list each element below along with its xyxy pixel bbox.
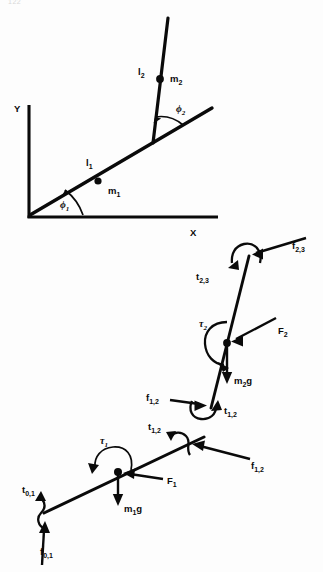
F2-force-label: F2 — [278, 325, 288, 338]
link1-length-label: l1 — [86, 157, 93, 170]
t23-torque-arrowhead — [228, 260, 239, 270]
fbd-link2: f2,3 t2,3 τ2 F2 m2g f1,2 — [146, 238, 306, 419]
tau1-torque-label: τ1 — [100, 435, 108, 449]
F1-force-label: F1 — [167, 475, 177, 488]
fbd-link1: f1,2 t1,2 τ1 F1 m1g t0,1 — [22, 421, 264, 565]
x-axis-label: X — [190, 227, 197, 238]
link1-mass-label: m1 — [108, 185, 120, 198]
phi2-angle-arc — [155, 117, 183, 125]
tau1-torque-arc — [95, 447, 132, 470]
F2-force-shaft — [236, 318, 276, 339]
tau1-torque-arrowhead — [88, 463, 99, 474]
link1-body — [30, 108, 212, 215]
kinematics-diagram: Y X l1 m1 l2 m2 ϕ1 ϕ2 — [14, 18, 218, 238]
link2-length-label: l2 — [138, 66, 145, 79]
phi1-angle-label: ϕ1 — [60, 199, 69, 213]
figure-container: 122 Y X l1 m1 l2 m2 ϕ1 — [0, 0, 323, 572]
m2g-weight-label: m2g — [234, 375, 252, 388]
m1g-weight-label: m1g — [124, 503, 142, 516]
t23-torque-label: t2,3 — [196, 271, 209, 285]
t12-on-link1-label: t1,2 — [148, 421, 161, 435]
F1-force-arrowhead — [123, 469, 135, 480]
m2g-weight-arrowhead — [222, 372, 232, 384]
tau2-torque-label: τ2 — [199, 318, 207, 332]
F1-force-shaft — [130, 474, 163, 479]
t01-torque-arrowhead — [35, 491, 46, 501]
f12-on-link1-shaft — [200, 446, 250, 459]
y-axis-label: Y — [14, 103, 21, 114]
f12-on-link2-arrowhead — [195, 401, 208, 412]
f12-on-link2-label: f1,2 — [146, 392, 159, 406]
link2-mass-label: m2 — [170, 73, 182, 86]
link2-center-of-mass-dot — [156, 75, 164, 83]
t12-on-link1-arrowhead — [166, 431, 176, 441]
f23-force-label: f2,3 — [292, 240, 305, 254]
mechanics-figure: Y X l1 m1 l2 m2 ϕ1 ϕ2 — [0, 0, 323, 572]
m1g-weight-arrowhead — [113, 494, 123, 506]
link1-center-of-mass-dot — [94, 177, 101, 184]
t01-torque-label: t0,1 — [22, 484, 35, 498]
f12-on-link1-label: f1,2 — [251, 460, 264, 474]
t12-on-link2-label: t1,2 — [224, 405, 237, 419]
phi2-angle-label: ϕ2 — [176, 103, 186, 117]
